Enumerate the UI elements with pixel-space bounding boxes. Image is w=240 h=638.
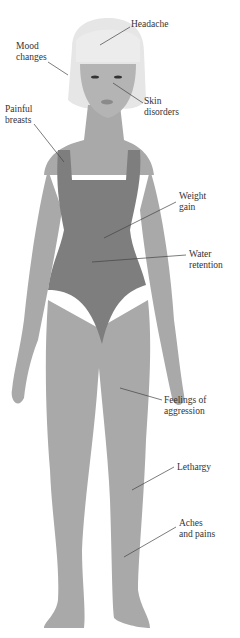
- left-leg: [44, 300, 102, 628]
- label-weight-gain: Weight gain: [179, 191, 206, 213]
- lips: [101, 100, 113, 105]
- body-illustration: [0, 0, 240, 638]
- label-feelings-of-aggression: Feelings of aggression: [164, 395, 206, 417]
- label-mood-changes: Mood changes: [16, 41, 47, 63]
- label-skin-disorders: Skin disorders: [144, 96, 179, 118]
- label-aches-and-pains: Aches and pains: [179, 518, 215, 540]
- label-painful-breasts: Painful breasts: [5, 104, 32, 126]
- right-eye: [114, 75, 122, 78]
- bangs: [76, 30, 140, 63]
- label-headache: Headache: [131, 19, 168, 30]
- right-leg: [96, 300, 150, 628]
- leader-mood: [48, 62, 68, 75]
- leader-breasts: [34, 124, 64, 162]
- label-water-retention: Water retention: [189, 249, 223, 271]
- label-lethargy: Lethargy: [177, 462, 211, 473]
- left-eye: [91, 75, 99, 78]
